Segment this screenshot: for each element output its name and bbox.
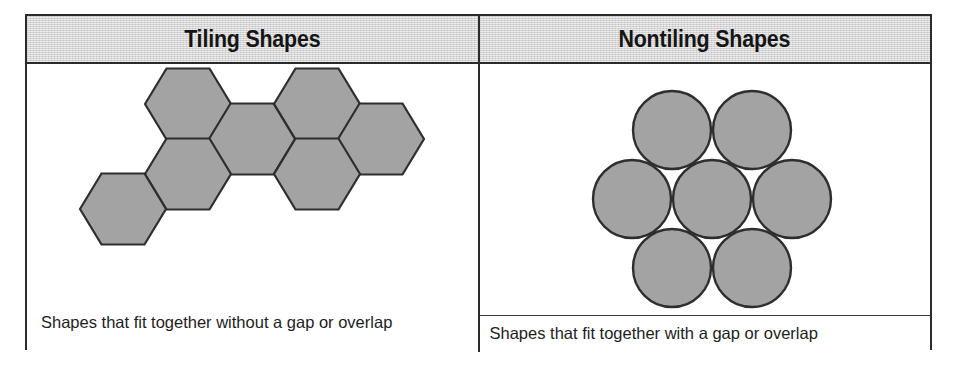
circle-shape bbox=[713, 91, 791, 169]
circle-shape bbox=[633, 91, 711, 169]
page-root: Tiling Shapes Nontiling Shapes bbox=[0, 0, 955, 377]
header-label-nontiling: Nontiling Shapes bbox=[619, 26, 791, 53]
body-cell-nontiling: Shapes that fit together with a gap or o… bbox=[480, 64, 931, 352]
table-grid: Tiling Shapes Nontiling Shapes bbox=[27, 16, 930, 348]
table-body-row: Shapes that fit together without a gap o… bbox=[27, 64, 930, 352]
figure-area-tiling bbox=[27, 64, 478, 311]
header-cell-tiling: Tiling Shapes bbox=[27, 16, 480, 62]
circle-shape bbox=[673, 160, 751, 238]
header-cell-nontiling: Nontiling Shapes bbox=[480, 16, 931, 62]
header-label-tiling: Tiling Shapes bbox=[184, 26, 320, 53]
caption-nontiling: Shapes that fit together with a gap or o… bbox=[480, 316, 931, 352]
circle-group bbox=[593, 91, 831, 307]
circle-shape bbox=[593, 160, 671, 238]
body-cell-tiling: Shapes that fit together without a gap o… bbox=[27, 64, 480, 352]
circle-packing-figure bbox=[480, 64, 930, 315]
circle-shape bbox=[633, 229, 711, 307]
circle-shape bbox=[713, 229, 791, 307]
caption-tiling: Shapes that fit together without a gap o… bbox=[27, 311, 441, 352]
table-header-row: Tiling Shapes Nontiling Shapes bbox=[27, 16, 930, 64]
hexagon-tiling-figure bbox=[27, 64, 477, 282]
comparison-table: Tiling Shapes Nontiling Shapes bbox=[25, 14, 932, 350]
circle-shape bbox=[753, 160, 831, 238]
hexagon-group bbox=[80, 69, 424, 245]
figure-area-nontiling bbox=[480, 64, 931, 315]
